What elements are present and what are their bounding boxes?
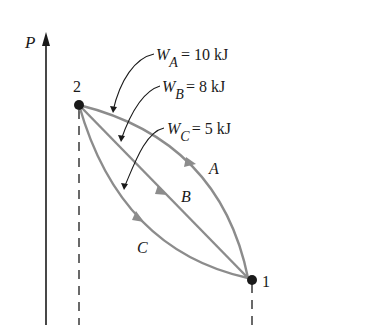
path-c-label: C [137, 239, 148, 256]
work-b-label: WB= 8 kJ [162, 78, 225, 102]
state-2-point [74, 100, 84, 110]
leader-b-arrow-icon [118, 135, 125, 142]
pressure-axis [42, 32, 50, 325]
state-2-label: 2 [73, 78, 81, 95]
path-a-label: A [208, 160, 219, 177]
path-a-arrow-icon [184, 157, 196, 167]
axis-arrow-icon [42, 32, 50, 46]
axis-label-p: P [24, 33, 35, 52]
work-c-label: WC= 5 kJ [167, 120, 231, 144]
state-1-point [247, 275, 257, 285]
work-leaders [113, 54, 164, 188]
pv-diagram: P WA= 10 kJ WB= 8 kJ WC= 5 kJ A B C 2 1 [0, 0, 375, 325]
path-b-arrow-icon [155, 185, 167, 195]
leader-c-arrow-icon [121, 183, 128, 190]
work-a-label: WA= 10 kJ [156, 46, 228, 70]
leader-a-arrow-icon [110, 106, 117, 113]
state-1-label: 1 [262, 273, 270, 290]
path-b-label: B [181, 188, 191, 205]
